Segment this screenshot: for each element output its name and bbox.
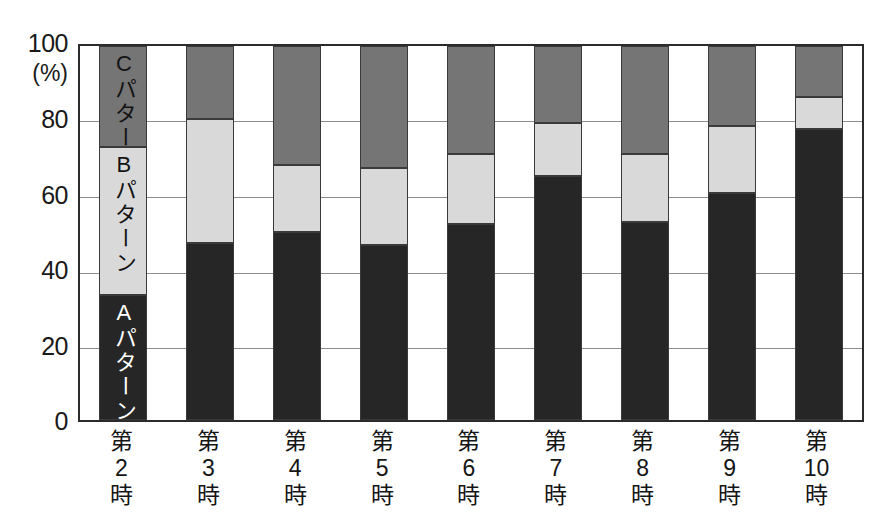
segment-a-第4時[interactable] (273, 232, 321, 420)
x-tick-line: 時 (686, 482, 773, 509)
x-tick-line: 時 (165, 482, 252, 509)
segment-b-第5時[interactable] (360, 168, 408, 245)
x-tick-label-第6時: 第6時 (426, 428, 513, 509)
stacked-bar-chart: 100 (%) 80 60 40 20 0 AパターンBパターンCパターン 第2… (0, 0, 881, 518)
bar-第6時[interactable] (447, 46, 495, 420)
bar-第8時[interactable] (621, 46, 669, 420)
y-axis: 100 (%) 80 60 40 20 0 (0, 0, 78, 518)
series-label: Bパターン (108, 152, 138, 275)
segment-a-第6時[interactable] (447, 224, 495, 420)
series-label: Cパターン (108, 51, 138, 147)
y-tick-label-0: 0 (55, 409, 68, 434)
series-label: Aパターン (108, 300, 138, 420)
x-tick-line: 4 (252, 455, 339, 482)
segment-b-第10時[interactable] (795, 97, 843, 129)
segment-a-第8時[interactable] (621, 222, 669, 420)
bar-第9時[interactable] (708, 46, 756, 420)
segment-a-第7時[interactable] (534, 176, 582, 420)
x-tick-label-第3時: 第3時 (165, 428, 252, 509)
segment-b-第9時[interactable] (708, 126, 756, 193)
x-tick-line: 7 (512, 455, 599, 482)
x-tick-line: 第 (165, 428, 252, 455)
y-tick-label-20: 20 (41, 334, 68, 359)
segment-a-第5時[interactable] (360, 245, 408, 420)
segment-a-第9時[interactable] (708, 193, 756, 420)
x-tick-line: 2 (78, 455, 165, 482)
x-tick-line: 3 (165, 455, 252, 482)
segment-c-第10時[interactable] (795, 46, 843, 97)
x-tick-line: 第 (773, 428, 860, 455)
x-tick-label-第10時: 第10時 (773, 428, 860, 509)
x-tick-line: 第 (252, 428, 339, 455)
segment-c-第3時[interactable] (186, 46, 234, 119)
x-tick-line: 第 (426, 428, 513, 455)
bar-第5時[interactable] (360, 46, 408, 420)
plot-area: AパターンBパターンCパターン (78, 44, 864, 422)
bar-第3時[interactable] (186, 46, 234, 420)
y-axis-unit-label: (%) (32, 62, 68, 85)
x-tick-line: 5 (339, 455, 426, 482)
x-tick-line: 時 (252, 482, 339, 509)
x-tick-line: 時 (773, 482, 860, 509)
x-tick-line: 時 (426, 482, 513, 509)
x-tick-label-第4時: 第4時 (252, 428, 339, 509)
x-tick-line: 時 (599, 482, 686, 509)
segment-c-第6時[interactable] (447, 46, 495, 154)
x-tick-line: 第 (599, 428, 686, 455)
x-tick-line: 10 (773, 455, 860, 482)
bar-第4時[interactable] (273, 46, 321, 420)
segment-b-第7時[interactable] (534, 123, 582, 175)
segment-b-第2時[interactable]: Bパターン (99, 147, 147, 294)
bars-layer: AパターンBパターンCパターン (80, 46, 862, 420)
x-tick-line: 第 (339, 428, 426, 455)
x-tick-line: 時 (512, 482, 599, 509)
segment-a-第2時[interactable]: Aパターン (99, 295, 147, 420)
y-tick-label-60: 60 (41, 183, 68, 208)
x-axis: 第2時第3時第4時第5時第6時第7時第8時第9時第10時 (78, 428, 864, 518)
segment-c-第5時[interactable] (360, 46, 408, 168)
x-tick-line: 6 (426, 455, 513, 482)
segment-b-第8時[interactable] (621, 154, 669, 222)
segment-a-第10時[interactable] (795, 129, 843, 420)
x-tick-label-第7時: 第7時 (512, 428, 599, 509)
bar-第7時[interactable] (534, 46, 582, 420)
x-tick-line: 第 (686, 428, 773, 455)
x-tick-line: 時 (78, 482, 165, 509)
x-tick-label-第2時: 第2時 (78, 428, 165, 509)
x-tick-line: 時 (339, 482, 426, 509)
segment-c-第8時[interactable] (621, 46, 669, 154)
x-tick-label-第8時: 第8時 (599, 428, 686, 509)
segment-c-第4時[interactable] (273, 46, 321, 165)
segment-b-第3時[interactable] (186, 119, 234, 243)
x-tick-line: 第 (78, 428, 165, 455)
x-tick-label-第9時: 第9時 (686, 428, 773, 509)
segment-c-第9時[interactable] (708, 46, 756, 126)
segment-c-第2時[interactable]: Cパターン (99, 46, 147, 147)
segment-a-第3時[interactable] (186, 243, 234, 420)
y-tick-label-40: 40 (41, 258, 68, 283)
bar-第2時[interactable]: AパターンBパターンCパターン (99, 46, 147, 420)
segment-c-第7時[interactable] (534, 46, 582, 123)
y-tick-label-100: 100 (28, 31, 68, 56)
x-tick-line: 9 (686, 455, 773, 482)
segment-b-第6時[interactable] (447, 154, 495, 224)
segment-b-第4時[interactable] (273, 165, 321, 232)
x-tick-line: 8 (599, 455, 686, 482)
x-tick-line: 第 (512, 428, 599, 455)
y-tick-label-80: 80 (41, 107, 68, 132)
x-tick-label-第5時: 第5時 (339, 428, 426, 509)
bar-第10時[interactable] (795, 46, 843, 420)
